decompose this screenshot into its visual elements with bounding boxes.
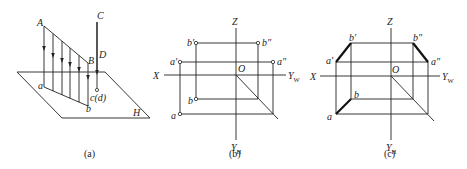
label-b: b: [354, 89, 359, 100]
label-O: O: [392, 64, 399, 75]
label-O: O: [238, 63, 245, 74]
label-D: D: [98, 49, 107, 60]
label-a: a: [38, 80, 43, 91]
label-b-prime: b′: [187, 37, 195, 48]
label-b-dprime: b″: [262, 37, 272, 48]
caption-c: (c): [384, 148, 395, 160]
panel-a: A B C D a b c(d) H (a): [17, 10, 150, 160]
label-b: b: [188, 95, 193, 106]
point-a-prime: [178, 60, 181, 63]
label-a: a: [171, 110, 176, 121]
caption-b: (b): [229, 148, 241, 160]
line-a-b: [336, 99, 351, 114]
point-b-prime: [194, 41, 197, 44]
label-YW: YW: [442, 71, 455, 84]
label-Z: Z: [232, 16, 238, 27]
caption-a: (a): [84, 148, 95, 160]
line-ab: [44, 87, 88, 106]
label-YW: YW: [288, 70, 301, 83]
label-X: X: [309, 71, 317, 82]
diagonal-45: [236, 75, 278, 119]
label-C: C: [97, 10, 104, 21]
label-a-dprime: a″: [431, 56, 441, 67]
panel-b: Z X O YW YH b′ b″ a′ a″ b a (b): [152, 16, 301, 160]
label-H: H: [132, 107, 141, 118]
panel-c: Z X O YW YH b′ b″ a′ a″ b a (c): [309, 16, 455, 160]
label-a-prime: a′: [326, 55, 334, 66]
h-plane: [17, 72, 150, 118]
projection-diagram: A B C D a b c(d) H (a) Z X O YW YH: [0, 0, 467, 169]
label-X: X: [152, 70, 160, 81]
label-b-prime: b′: [349, 32, 357, 43]
label-Z: Z: [387, 16, 393, 27]
point-b: [194, 97, 197, 100]
label-a-dprime: a″: [277, 56, 287, 67]
projector-lines: [42, 26, 90, 106]
point-a-dprime: [271, 60, 274, 63]
point-b-dprime: [256, 41, 259, 44]
label-b-dprime: b″: [413, 32, 423, 43]
point-a: [178, 112, 181, 115]
label-a-prime: a′: [170, 56, 178, 67]
line-b-dprime-a-dprime: [413, 43, 428, 62]
label-A: A: [36, 17, 44, 28]
line-AB: [44, 26, 88, 63]
label-cd: c(d): [90, 92, 107, 104]
label-a: a: [327, 111, 332, 122]
label-b: b: [86, 103, 91, 114]
line-a-prime-b-prime: [336, 43, 351, 62]
label-B: B: [88, 55, 94, 66]
